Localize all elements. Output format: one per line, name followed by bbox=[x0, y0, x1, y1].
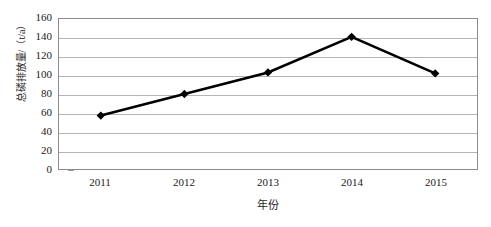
x-axis-tick-label: 2015 bbox=[406, 176, 466, 188]
y-axis-tick-mark bbox=[68, 170, 74, 171]
chart-figure: 总磷排放量/（t/a） 020406080100120140160 201120… bbox=[0, 0, 491, 227]
data-point-marker bbox=[180, 90, 188, 98]
plot-area bbox=[58, 18, 478, 170]
line-series-total-phosphorus bbox=[59, 19, 477, 169]
y-axis-tick-label: 60 bbox=[16, 107, 52, 118]
data-point-marker bbox=[347, 33, 355, 41]
y-axis-tick-label: 40 bbox=[16, 126, 52, 137]
data-point-marker bbox=[264, 68, 272, 76]
y-axis-tick-label: 0 bbox=[16, 164, 52, 175]
data-point-marker bbox=[97, 111, 105, 119]
x-axis-tick-label: 2011 bbox=[70, 176, 130, 188]
x-axis-tick-labels: 20112012201320142015 bbox=[58, 176, 478, 190]
data-point-marker bbox=[431, 69, 439, 77]
y-axis-tick-label: 120 bbox=[16, 50, 52, 61]
y-axis-tick-label: 100 bbox=[16, 69, 52, 80]
y-axis-tick-label: 20 bbox=[16, 145, 52, 156]
x-axis-tick-label: 2014 bbox=[322, 176, 382, 188]
x-axis-title: 年份 bbox=[58, 196, 478, 212]
y-axis-tick-label: 160 bbox=[16, 12, 52, 23]
y-axis-tick-label: 80 bbox=[16, 88, 52, 99]
y-axis-tick-labels: 020406080100120140160 bbox=[16, 13, 52, 169]
x-axis-tick-label: 2013 bbox=[238, 176, 298, 188]
y-axis-tick-label: 140 bbox=[16, 31, 52, 42]
x-axis-tick-label: 2012 bbox=[154, 176, 214, 188]
